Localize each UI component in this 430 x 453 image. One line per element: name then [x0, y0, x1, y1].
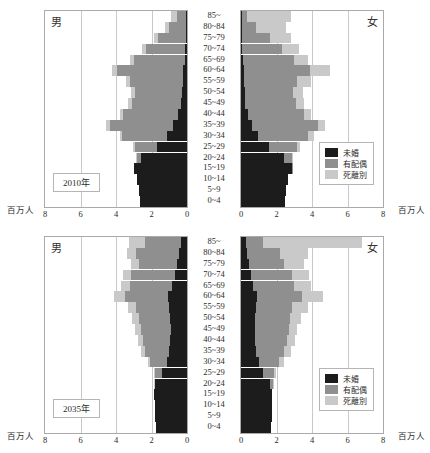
bar-row [45, 291, 187, 302]
bar-segment-unmarried [241, 400, 272, 411]
bar-segment-married [256, 302, 292, 313]
legend-swatch-widowed-divorced [325, 396, 338, 405]
bar-segment-unmarried [181, 237, 187, 248]
bar-segment-married [248, 109, 305, 120]
bar-segment-unmarried [170, 335, 187, 346]
bar-row [45, 65, 187, 76]
bar-segment-married [245, 87, 294, 98]
bar-segment-unmarried [241, 120, 252, 131]
bar-segment-married [251, 270, 292, 281]
bar-segment-unmarried [241, 131, 258, 142]
x-axis-female-2010: 02468 [240, 209, 384, 221]
age-group-label: 45~49 [188, 97, 240, 108]
male-plot-2035: 男 2035年 [44, 236, 188, 434]
bar-segment-unmarried [162, 368, 187, 379]
legend-item-widowed-divorced: 死離別 [325, 169, 367, 180]
bar-row [45, 313, 187, 324]
age-group-label: 55~59 [188, 301, 240, 312]
x-tick-label: 0 [185, 435, 189, 445]
age-group-label: 5~9 [188, 184, 240, 195]
bar-segment-married [259, 357, 279, 368]
bar-segment-widowed-divorced [106, 120, 110, 131]
x-tick-label: 8 [381, 435, 385, 445]
bar-segment-widowed-divorced [294, 281, 311, 292]
bar-row [241, 324, 383, 335]
bar-segment-married [141, 324, 171, 335]
bar-segment-married [135, 142, 157, 153]
bar-segment-married [134, 55, 185, 66]
bar-row [45, 153, 187, 164]
bar-row [241, 259, 383, 270]
x-tick-label: 8 [381, 209, 385, 219]
bar-segment-widowed-divorced [290, 313, 302, 324]
bar-segment-widowed-divorced [138, 335, 143, 346]
bar-segment-unmarried [154, 389, 187, 400]
bar-segment-widowed-divorced [279, 357, 283, 368]
unit-label-right-2010: 百万人 [398, 203, 425, 215]
age-group-label: 25~29 [188, 367, 240, 378]
bar-segment-married [131, 270, 174, 281]
bar-segment-married [150, 357, 167, 368]
age-group-label: 35~39 [188, 119, 240, 130]
bar-segment-widowed-divorced [131, 87, 135, 98]
age-group-label: 45~49 [188, 323, 240, 334]
year-label-2010: 2010年 [53, 173, 100, 192]
bar-segment-unmarried [241, 422, 271, 433]
bar-row [241, 411, 383, 422]
bar-segment-unmarried [171, 324, 187, 335]
bar-segment-unmarried [140, 196, 187, 207]
bar-row [241, 185, 383, 196]
age-group-label: 50~54 [188, 86, 240, 97]
legend-label-unmarried: 未婚 [343, 147, 359, 158]
bar-segment-widowed-divorced [131, 259, 139, 270]
legend-label-married: 有配偶 [343, 384, 367, 395]
bar-segment-widowed-divorced [270, 33, 291, 44]
bar-row [241, 313, 383, 324]
bar-segment-married [242, 33, 270, 44]
bar-segment-married [123, 109, 178, 120]
bar-row [241, 248, 383, 259]
bar-segment-widowed-divorced [120, 109, 124, 120]
x-tick-label: 8 [43, 209, 47, 219]
legend-swatch-unmarried [325, 148, 338, 157]
legend-label-unmarried: 未婚 [343, 373, 359, 384]
bar-row [45, 335, 187, 346]
age-group-label: 50~54 [188, 312, 240, 323]
bar-segment-married [263, 368, 274, 379]
bar-segment-widowed-divorced [284, 346, 291, 357]
bar-segment-unmarried [185, 55, 187, 66]
unit-label-left-2035: 百万人 [7, 429, 34, 441]
bar-segment-unmarried [241, 302, 256, 313]
bar-segment-widowed-divorced [318, 120, 325, 131]
legend-swatch-married [325, 385, 338, 394]
bar-segment-unmarried [241, 259, 249, 270]
age-group-label: 40~44 [188, 108, 240, 119]
bar-segment-widowed-divorced [274, 368, 276, 379]
bar-segment-widowed-divorced [128, 302, 136, 313]
bar-segment-married [256, 346, 284, 357]
bar-segment-widowed-divorced [280, 248, 308, 259]
x-axis-female-2035: 02468 [240, 435, 384, 447]
bar-segment-unmarried [241, 270, 251, 281]
bar-segment-widowed-divorced [112, 65, 117, 76]
bar-segment-unmarried [241, 335, 255, 346]
bar-segment-married [249, 259, 284, 270]
bar-segment-widowed-divorced [171, 11, 176, 22]
bar-segment-married [122, 131, 167, 142]
bar-segment-unmarried [241, 313, 255, 324]
bar-segment-married [158, 33, 186, 44]
age-group-label: 55~59 [188, 75, 240, 86]
bar-segment-married [243, 55, 294, 66]
bar-row [45, 302, 187, 313]
age-group-label: 0~4 [188, 421, 240, 432]
bar-segment-married [117, 65, 183, 76]
bar-segment-unmarried [241, 281, 253, 292]
bar-row [241, 196, 383, 207]
age-group-label: 10~14 [188, 399, 240, 410]
bar-segment-married [255, 313, 290, 324]
bar-segment-married [143, 335, 171, 346]
legend-item-widowed-divorced: 死離別 [325, 395, 367, 406]
bar-segment-unmarried [241, 163, 292, 174]
bar-row [241, 357, 383, 368]
x-tick-label: 4 [310, 209, 314, 219]
